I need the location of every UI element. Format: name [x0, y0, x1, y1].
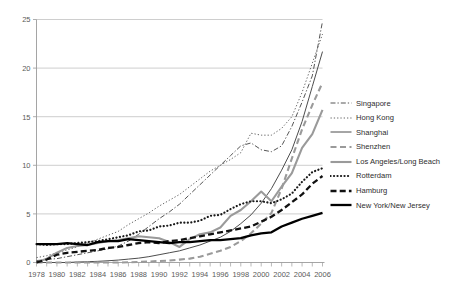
legend-item-hamburg[interactable]: Hamburg: [330, 184, 454, 199]
legend-swatch-icon: [330, 127, 352, 137]
x-tick-label: 2000: [253, 270, 270, 279]
y-tick-label: 20: [22, 64, 30, 73]
legend-item-hong-kong[interactable]: Hong Kong: [330, 111, 454, 126]
legend-item-los-angeles-long-beach[interactable]: Los Angeles/Long Beach: [330, 154, 454, 169]
x-tick-label: 2004: [294, 270, 311, 279]
x-tick-label: 2006: [314, 270, 331, 279]
x-tick-label: 1992: [171, 270, 188, 279]
series-line: [37, 34, 323, 258]
series-line: [37, 168, 323, 245]
legend-item-rotterdam[interactable]: Rotterdam: [330, 169, 454, 184]
chart-legend: SingaporeHong KongShanghaiShenzhenLos An…: [330, 96, 454, 213]
legend-swatch-icon: [330, 186, 352, 196]
legend-swatch-icon: [330, 157, 352, 167]
legend-item-singapore[interactable]: Singapore: [330, 96, 454, 111]
series-line: [37, 213, 323, 245]
x-tick-label: 1978: [28, 270, 45, 279]
x-tick-label: 1988: [130, 270, 147, 279]
x-tick-label: 1994: [192, 270, 209, 279]
legend-label: New York/New Jersey: [356, 202, 430, 210]
legend-label: Singapore: [356, 100, 391, 108]
y-tick-label: 5: [26, 210, 30, 219]
legend-label: Hong Kong: [356, 114, 394, 122]
legend-label: Hamburg: [356, 187, 387, 195]
series-line: [37, 110, 323, 263]
legend-swatch-icon: [330, 113, 352, 123]
legend-swatch-icon: [330, 200, 352, 210]
legend-item-shenzhen[interactable]: Shenzhen: [330, 140, 454, 155]
chart-container: 0510152025197819801982198419861988199019…: [0, 0, 454, 292]
x-tick-label: 1990: [151, 270, 168, 279]
legend-item-shanghai[interactable]: Shanghai: [330, 125, 454, 140]
series-line: [37, 83, 323, 263]
series-line: [37, 21, 323, 260]
legend-label: Shenzhen: [356, 143, 390, 151]
x-tick-label: 1996: [212, 270, 229, 279]
y-tick-label: 10: [22, 161, 30, 170]
y-tick-label: 25: [22, 15, 30, 24]
legend-swatch-icon: [330, 98, 352, 108]
x-tick-label: 1980: [49, 270, 66, 279]
legend-label: Shanghai: [356, 129, 388, 137]
x-tick-label: 1982: [69, 270, 86, 279]
legend-swatch-icon: [330, 171, 352, 181]
legend-label: Los Angeles/Long Beach: [356, 158, 440, 166]
x-tick-label: 2002: [273, 270, 290, 279]
y-tick-label: 0: [26, 258, 30, 267]
legend-label: Rotterdam: [356, 172, 391, 180]
y-tick-label: 15: [22, 113, 30, 122]
legend-item-new-york-new-jersey[interactable]: New York/New Jersey: [330, 198, 454, 213]
x-tick-label: 1998: [232, 270, 249, 279]
legend-swatch-icon: [330, 142, 352, 152]
x-tick-label: 1984: [89, 270, 106, 279]
x-tick-label: 1986: [110, 270, 127, 279]
series-line: [37, 52, 323, 263]
